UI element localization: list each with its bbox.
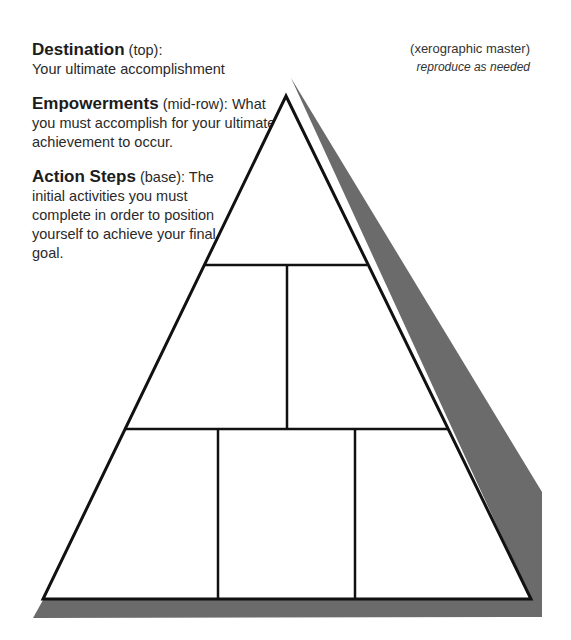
goal-pyramid [0, 0, 571, 640]
action-step-box-2[interactable] [218, 429, 355, 599]
empowerment-box-1[interactable] [125, 265, 287, 429]
action-step-box-1[interactable] [44, 429, 218, 599]
